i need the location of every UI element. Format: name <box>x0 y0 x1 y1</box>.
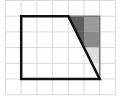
grid-diagram <box>0 0 121 108</box>
shaded-cell <box>84 16 100 32</box>
shaded-cell <box>84 32 100 48</box>
